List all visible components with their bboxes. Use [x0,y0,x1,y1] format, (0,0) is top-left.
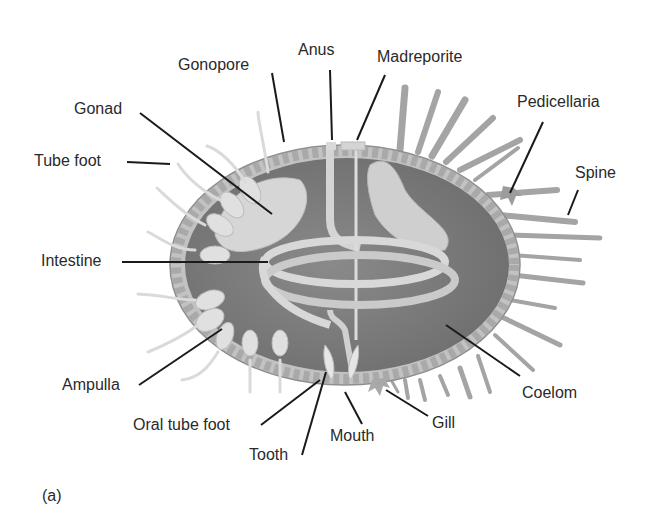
label-coelom: Coelom [522,385,577,401]
panel-label: (a) [42,488,62,504]
madreporite-structure [341,142,365,150]
label-gill: Gill [432,415,455,431]
label-mouth: Mouth [330,428,374,444]
label-oral-tube-foot: Oral tube foot [133,417,230,433]
label-pedicellaria: Pedicellaria [517,94,600,110]
label-madreporite: Madreporite [377,49,462,65]
label-gonopore: Gonopore [178,57,249,73]
label-spine: Spine [575,165,616,181]
label-intestine: Intestine [41,253,101,269]
label-tube-foot: Tube foot [34,153,101,169]
anus-structure [326,142,336,150]
label-tooth: Tooth [249,447,288,463]
label-gonad: Gonad [74,101,122,117]
label-anus: Anus [298,42,334,58]
label-ampulla: Ampulla [62,377,120,393]
